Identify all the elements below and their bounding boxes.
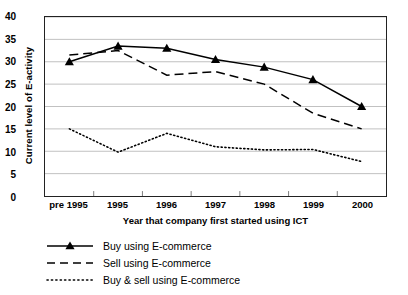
chart-svg (45, 17, 386, 196)
x-tick-label: 1999 (303, 199, 324, 210)
x-tick-label: 1998 (254, 199, 275, 210)
x-axis-title: Year that company first started using IC… (44, 215, 387, 226)
y-tick-label: 10 (0, 146, 16, 157)
y-tick-label: 40 (0, 11, 16, 22)
y-tick-label: 0 (0, 192, 16, 203)
legend-item-1[interactable]: Buy using E-commerce (46, 237, 240, 254)
data-series-layer (65, 42, 366, 162)
legend-key-icon (46, 274, 94, 286)
plot-area (44, 16, 387, 197)
y-tick-label: 15 (0, 124, 16, 135)
legend-label: Sell using E-commerce (103, 257, 211, 269)
x-tick-label: 1997 (205, 199, 226, 210)
x-axis-tick-marks (94, 191, 338, 196)
series-line (69, 129, 361, 162)
x-tick-label: 1996 (156, 199, 177, 210)
x-tick-label: 2000 (352, 199, 373, 210)
chart-legend: Buy using E-commerceSell using E-commerc… (46, 237, 240, 288)
legend-key-icon (46, 240, 94, 252)
y-tick-label: 5 (0, 169, 16, 180)
legend-item-2[interactable]: Sell using E-commerce (46, 254, 240, 271)
data-point-marker (357, 102, 366, 110)
y-tick-label: 35 (0, 33, 16, 44)
legend-label: Buy & sell using E-commerce (103, 274, 240, 286)
legend-item-3[interactable]: Buy & sell using E-commerce (46, 271, 240, 288)
x-tick-label: 1995 (107, 199, 128, 210)
y-tick-label: 20 (0, 101, 16, 112)
gridlines (45, 17, 386, 174)
legend-key-icon (46, 257, 94, 269)
y-tick-label: 25 (0, 78, 16, 89)
series-1 (65, 42, 366, 111)
x-tick-label: pre 1995 (49, 199, 88, 210)
series-3 (69, 129, 361, 162)
y-axis-title: Current level of E-activity (23, 16, 34, 196)
legend-label: Buy using E-commerce (103, 240, 212, 252)
chart-figure: Current level of E-activity 051015202530… (0, 0, 408, 295)
y-tick-label: 30 (0, 56, 16, 67)
